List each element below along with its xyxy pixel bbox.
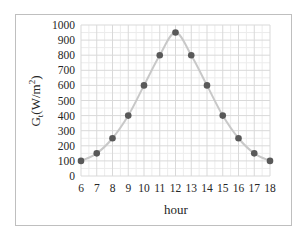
x-tick-label: 13 [186, 182, 198, 194]
y-axis-tick-labels: 01002003004005006007008009001000 [52, 19, 75, 182]
y-axis-title-unit: (W/m [28, 84, 43, 114]
x-tick-label: 18 [264, 182, 276, 194]
y-tick-label: 0 [69, 170, 75, 182]
y-axis-title-unit-close: ) [28, 75, 43, 79]
data-point [219, 112, 226, 119]
y-axis-title-main: G [28, 117, 43, 126]
y-tick-label: 600 [58, 79, 76, 91]
y-tick-label: 200 [58, 140, 76, 152]
x-tick-label: 11 [154, 182, 165, 194]
x-tick-label: 8 [110, 182, 116, 194]
x-tick-label: 10 [138, 182, 150, 194]
data-point [109, 135, 116, 142]
y-tick-label: 500 [58, 95, 76, 107]
y-tick-label: 700 [58, 64, 76, 76]
data-point [78, 158, 85, 165]
line-chart: 01002003004005006007008009001000 6789101… [0, 0, 304, 239]
data-point [172, 29, 179, 36]
data-point [156, 52, 163, 59]
y-tick-label: 900 [58, 34, 76, 46]
x-tick-label: 7 [94, 182, 100, 194]
data-point [125, 112, 132, 119]
data-point [235, 135, 242, 142]
x-tick-label: 17 [249, 182, 261, 194]
data-point [93, 150, 100, 157]
y-tick-label: 1000 [52, 19, 75, 31]
x-tick-label: 6 [78, 182, 84, 194]
data-point [188, 52, 195, 59]
data-point [267, 158, 274, 165]
x-tick-label: 12 [170, 182, 182, 194]
data-point [204, 82, 211, 89]
x-axis-tick-labels: 6789101112131415161718 [78, 182, 276, 194]
data-point [251, 150, 258, 157]
y-tick-label: 300 [58, 125, 76, 137]
y-tick-label: 800 [58, 49, 76, 61]
y-tick-label: 400 [58, 110, 76, 122]
data-point [141, 82, 148, 89]
x-tick-label: 15 [217, 182, 229, 194]
x-tick-label: 14 [201, 182, 213, 194]
y-axis-title: Gt(W/m2) [27, 75, 45, 126]
y-tick-label: 100 [58, 155, 76, 167]
x-tick-label: 9 [125, 182, 131, 194]
x-tick-label: 16 [233, 182, 245, 194]
x-axis-title: hour [164, 202, 189, 217]
